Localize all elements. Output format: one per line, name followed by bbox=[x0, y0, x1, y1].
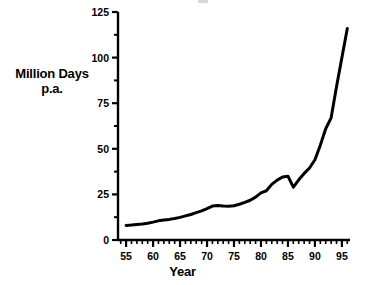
x-tick-label: 90 bbox=[309, 250, 321, 262]
y-tick-label: 100 bbox=[91, 52, 109, 64]
x-tick-label: 80 bbox=[255, 250, 267, 262]
x-tick-label: 65 bbox=[174, 250, 186, 262]
y-tick-label: 25 bbox=[97, 188, 109, 200]
x-tick-label: 85 bbox=[282, 250, 294, 262]
x-tick-label: 70 bbox=[201, 250, 213, 262]
y-tick-label: 0 bbox=[103, 234, 109, 246]
chart-canvas: 0255075100125 556065707580859095 bbox=[0, 0, 365, 285]
y-tick-label: 75 bbox=[97, 97, 109, 109]
x-tick-label: 55 bbox=[120, 250, 132, 262]
x-tick-label: 60 bbox=[147, 250, 159, 262]
y-tick-label: 50 bbox=[97, 143, 109, 155]
x-tick-label: 95 bbox=[336, 250, 348, 262]
data-series-line bbox=[126, 28, 347, 225]
line-chart: Million Days p.a. Year 0255075100125 556… bbox=[0, 0, 365, 285]
y-axis-tick-labels: 0255075100125 bbox=[91, 6, 109, 246]
x-tick-label: 75 bbox=[228, 250, 240, 262]
y-tick-label: 125 bbox=[91, 6, 109, 18]
x-axis-tick-labels: 556065707580859095 bbox=[120, 250, 348, 262]
